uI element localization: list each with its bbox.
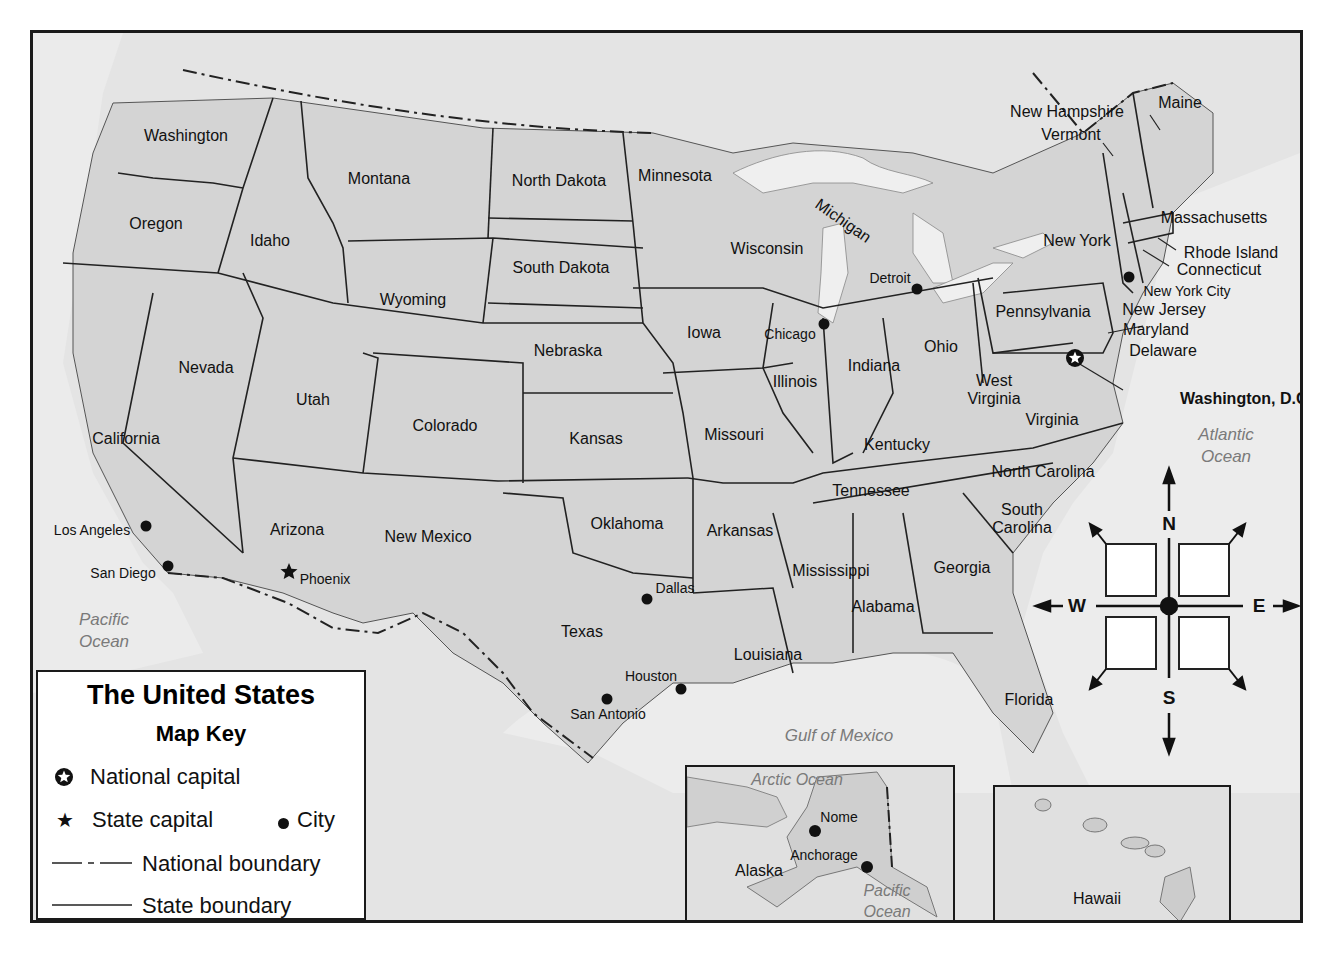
city-label: Detroit [869, 270, 910, 286]
state-label: Delaware [1129, 342, 1197, 360]
state-label: New York [1043, 232, 1111, 250]
state-label: South Carolina [987, 501, 1057, 536]
city-label: San Diego [90, 565, 155, 581]
legend-label: City [297, 807, 335, 832]
state-label: Tennessee [832, 482, 909, 500]
map-frame: WashingtonOregonIdahoMontanaWyomingNorth… [30, 30, 1303, 923]
alaska-inset: Arctic Ocean Nome Anchorage Alaska Pacif… [685, 765, 955, 923]
state-label: Louisiana [734, 646, 803, 664]
state-label: Arkansas [707, 522, 774, 540]
state-label: New Hampshire [1010, 103, 1124, 121]
state-label: Oregon [129, 215, 182, 233]
state-label: Idaho [250, 232, 290, 250]
state-label: New Jersey [1122, 301, 1206, 319]
city-dot-icon [278, 818, 289, 829]
legend-state-boundary: State boundary [52, 893, 291, 919]
legend-national-capital: National capital [54, 764, 240, 790]
national-boundary-line-icon [52, 858, 132, 868]
city-label: Los Angeles [54, 522, 130, 538]
state-label: Washington [144, 127, 228, 145]
state-label: California [92, 430, 160, 448]
national-capital-icon [54, 767, 74, 787]
alaska-label: Alaska [735, 862, 783, 880]
state-label: Connecticut [1177, 261, 1262, 279]
legend-label: National boundary [142, 851, 321, 876]
state-capital-icon: ★ [56, 809, 74, 831]
state-label: South Dakota [513, 259, 610, 277]
state-label: Utah [296, 391, 330, 409]
state-boundary-line-icon [52, 900, 132, 910]
compass-west-label: W [1068, 595, 1086, 617]
state-label: Colorado [413, 417, 478, 435]
state-label: Maine [1158, 94, 1202, 112]
state-label: Arizona [270, 521, 324, 539]
state-label: Iowa [687, 324, 721, 342]
state-label: Kentucky [864, 436, 930, 454]
legend-label: State boundary [142, 893, 291, 918]
city-label: Dallas [656, 580, 695, 596]
state-label: New Mexico [384, 528, 471, 546]
state-label: Oklahoma [591, 515, 664, 533]
ocean-label: Pacific Ocean [79, 609, 129, 653]
state-label: Mississippi [792, 562, 869, 580]
state-label: Indiana [848, 357, 901, 375]
legend-national-boundary: National boundary [52, 851, 321, 877]
state-label: Nevada [178, 359, 233, 377]
ocean-label: Atlantic Ocean [1198, 424, 1254, 468]
state-label: Maryland [1123, 321, 1189, 339]
state-label: Missouri [704, 426, 764, 444]
map-legend: The United States Map Key National capit… [36, 670, 366, 920]
state-label: Nebraska [534, 342, 602, 360]
state-label: Minnesota [638, 167, 712, 185]
state-label: Texas [561, 623, 603, 641]
map-title: The United States [38, 680, 364, 711]
state-label: Virginia [1025, 411, 1078, 429]
state-label: Wisconsin [731, 240, 804, 258]
state-label: Massachusetts [1161, 209, 1268, 227]
city-label: San Antonio [570, 706, 646, 722]
ocean-label: Gulf of Mexico [785, 725, 894, 747]
city-label-anchorage: Anchorage [790, 847, 858, 863]
city-label: Chicago [764, 326, 815, 342]
hawaii-inset: Hawaii Pacific Ocean [993, 785, 1231, 923]
state-label: Rhode Island [1184, 244, 1278, 262]
compass-east-label: E [1253, 595, 1266, 617]
compass-north-label: N [1162, 513, 1176, 535]
map-key-heading: Map Key [38, 721, 364, 747]
state-label: Montana [348, 170, 410, 188]
state-label: Florida [1005, 691, 1054, 709]
legend-label: National capital [90, 764, 240, 789]
city-label: Washington, D.C. [1180, 390, 1303, 408]
compass-south-label: S [1163, 687, 1176, 709]
city-label: Phoenix [300, 571, 351, 587]
legend-city: City [278, 807, 335, 833]
state-label: Wyoming [380, 291, 447, 309]
state-label: Ohio [924, 338, 958, 356]
state-label: Vermont [1041, 126, 1101, 144]
state-label: North Carolina [991, 463, 1094, 481]
state-label: Georgia [934, 559, 991, 577]
hawaii-label: Hawaii [1073, 890, 1121, 908]
arctic-ocean-label: Arctic Ocean [751, 770, 843, 791]
state-label: Pennsylvania [995, 303, 1090, 321]
state-label: Kansas [569, 430, 622, 448]
state-label: North Dakota [512, 172, 606, 190]
state-label: West Virginia [959, 372, 1029, 407]
city-label-nome: Nome [820, 809, 857, 825]
alaska-pacific-ocean-label: Pacific Ocean [863, 881, 910, 923]
state-label: Illinois [773, 373, 817, 391]
city-label: Houston [625, 668, 677, 684]
city-label: New York City [1143, 283, 1230, 299]
state-label: Alabama [851, 598, 914, 616]
legend-label: State capital [92, 807, 213, 832]
legend-state-capital: ★State capital [56, 807, 213, 833]
